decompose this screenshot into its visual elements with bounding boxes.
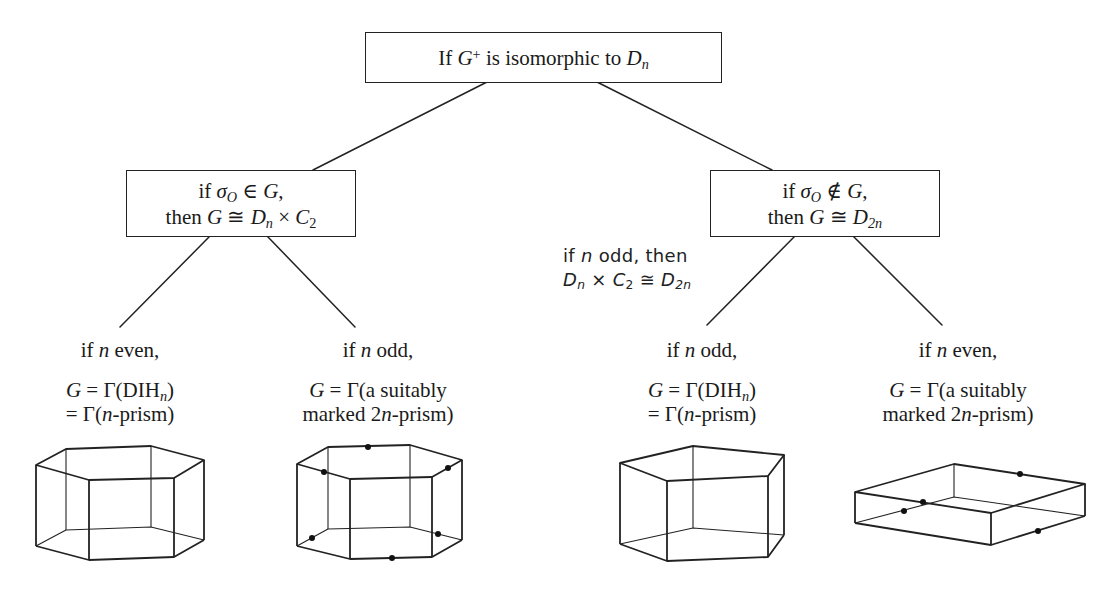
text: marked 2 [302,402,381,426]
leaf-4-result-line1: G = Γ(a suitably [858,378,1058,402]
text: = Γ(a suitably [904,378,1027,402]
annotation-line1: if n odd, then [563,244,691,268]
text: then [768,205,809,229]
text: even, [947,338,997,362]
leaf-3-result-line2: = Γ(n-prism) [602,402,802,426]
not-element-of-symbol: ∉ [821,179,847,203]
leaf-4-condition: if n even, [858,338,1058,362]
symbol-G: G [457,46,472,70]
times-symbol: × [273,205,295,229]
right-branch-line1: if σO ∉ G, [782,178,867,204]
text: odd, [695,338,737,362]
element-of-symbol: ∈ [237,179,263,203]
symbol-D: D [563,269,577,290]
leaf-2-condition: if n odd, [278,338,478,362]
text: if [198,179,216,203]
text: ) [167,378,174,402]
root-text: If G+ is isomorphic to Dn [438,45,649,71]
text: odd, [371,338,413,362]
edge-root-right [597,82,772,170]
symbol-D: D [251,205,266,229]
symbol-D: D [627,46,642,70]
edge-right-leaf3 [707,236,795,325]
edge-markers [901,471,1041,534]
symbol-C: C [295,205,309,229]
symbol-D: D [853,205,868,229]
symbol-n: n [684,402,695,426]
text: if [343,338,361,362]
text: = Γ( [648,402,684,426]
text: = Γ(DIH [81,378,160,402]
text: marked 2 [882,402,961,426]
leaf-2-result-line2: marked 2n-prism) [278,402,478,426]
symbol-G: G [66,378,81,402]
text: ) [749,378,756,402]
symbol-n: n [581,245,593,266]
leaf-3-condition: if n odd, [602,338,802,362]
left-branch-line1: if σO ∈ G, [198,178,283,204]
root-text-pre: If [438,46,457,70]
symbol-n: n [381,402,392,426]
symbol-G: G [263,179,278,203]
symbol-G: G [207,205,222,229]
text: if [563,245,581,266]
left-branch-node: if σO ∈ G, then G ≅ Dn × C2 [126,170,356,237]
text: then [166,205,207,229]
text: = Γ(DIH [663,378,742,402]
symbol-n: n [102,402,113,426]
leaf-4-result-line2: marked 2n-prism) [858,402,1058,426]
text: even, [109,338,159,362]
text: odd, then [593,245,688,266]
symbol-G: G [889,378,904,402]
marked-hexagonal-prism-figure [297,444,462,561]
diagram-canvas [0,0,1116,592]
subscript-n: n [266,214,273,230]
subscript-2: 2 [626,278,634,292]
superscript-plus: + [473,45,481,61]
hexagonal-prism-figure [36,446,204,560]
times-symbol: × [585,269,612,290]
text: = Γ(a suitably [324,378,447,402]
subscript-2n: 2n [675,278,691,292]
symbol-n: n [361,338,372,362]
symbol-G: G [809,205,824,229]
symbol-sigma: σ [800,179,810,203]
right-branch-line2: then G ≅ D2n [768,204,883,230]
subscript-O: O [227,188,237,204]
subscript-2n: 2n [868,214,882,230]
left-branch-line2: then G ≅ Dn × C2 [166,204,317,230]
edge-root-left [313,82,487,170]
text: -prism) [972,402,1034,426]
edge-markers [309,444,451,561]
pentagonal-prism-figure [620,446,784,561]
text: -prism) [112,402,174,426]
leaf-1-result-line2: = Γ(n-prism) [20,402,220,426]
leaf-2-result-line1: G = Γ(a suitably [278,378,478,402]
marked-square-prism-figure [855,464,1085,545]
edge-left-leaf2 [268,237,355,327]
text: if [919,338,937,362]
annotation-line2: Dn × C2 ≅ D2n [563,268,691,292]
symbol-n: n [99,338,110,362]
symbol-G: G [847,179,862,203]
right-branch-node: if σO ∉ G, then G ≅ D2n [710,170,940,237]
leaf-1-result-line1: G = Γ(DIHn) [20,378,220,402]
isomorphic-symbol: ≅ [634,269,661,290]
edge-left-leaf1 [120,237,209,327]
text: if [782,179,800,203]
leaf-3-result-line1: G = Γ(DIHn) [602,378,802,402]
subscript-2: 2 [309,214,316,230]
leaf-2-label: if n odd, G = Γ(a suitably marked 2n-pri… [278,338,478,426]
subscript-n: n [642,55,649,71]
symbol-n: n [937,338,948,362]
text: if [81,338,99,362]
text: , [862,179,867,203]
leaf-1-condition: if n even, [20,338,220,362]
text: if [667,338,685,362]
isomorphic-symbol: ≅ [824,205,853,229]
symbol-n: n [685,338,696,362]
root-node: If G+ is isomorphic to Dn [365,32,722,83]
edge-right-leaf4 [853,236,942,325]
symbol-n: n [961,402,972,426]
isomorphic-symbol: ≅ [222,205,251,229]
